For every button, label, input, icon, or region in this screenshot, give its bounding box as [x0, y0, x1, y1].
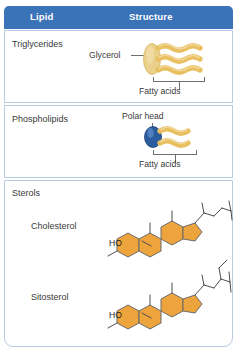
table-row-phospholipids: Phospholipids Polar head Fa [4, 105, 233, 178]
annotation-glycerol: Glycerol [89, 50, 121, 60]
lipid-structure-table: Lipid Structure Triglycerides Glycerol [4, 6, 233, 348]
sitosterol-molecule-icon [105, 255, 233, 343]
table-row-triglycerides: Triglycerides Glycerol [4, 30, 233, 103]
annotation-fatty-acids-phospholipid: Fatty acids [139, 159, 181, 169]
column-header-lipid: Lipid [30, 11, 53, 22]
annotation-fatty-acids-triglyceride: Fatty acids [139, 86, 181, 96]
row-label-phospholipids: Phospholipids [12, 114, 68, 124]
row-label-triglycerides: Triglycerides [12, 39, 63, 49]
hydroxyl-label-cholesterol: HO [109, 238, 122, 248]
row-label-cholesterol: Cholesterol [31, 221, 77, 231]
row-label-sitosterol: Sitosterol [31, 292, 69, 302]
column-header-structure: Structure [129, 11, 173, 22]
table-row-sterols: Sterols Cholesterol Sitosterol [4, 180, 233, 347]
table-header: Lipid Structure [4, 6, 233, 29]
triglyceride-molecule-icon [142, 35, 222, 83]
cholesterol-molecule-icon [105, 183, 233, 261]
hydroxyl-label-sitosterol: HO [109, 310, 122, 320]
row-label-sterols: Sterols [12, 188, 40, 198]
